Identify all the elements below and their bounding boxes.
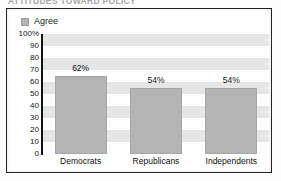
x-tick-democrats: Democrats <box>48 157 114 166</box>
y-tick-20: 20 <box>30 126 39 134</box>
chart-frame: Agree 0102030405060708090100% 62%54%54% … <box>6 8 272 173</box>
y-tick-90: 90 <box>30 42 39 50</box>
chart-page: ATTITUDES TOWARD POLICY Agree 0102030405… <box>0 0 281 181</box>
bar-slot-democrats: 62% <box>55 34 107 154</box>
bar-slot-independents: 54% <box>205 34 257 154</box>
y-tick-100: 100% <box>19 30 39 38</box>
cropped-title: ATTITUDES TOWARD POLICY <box>8 0 168 5</box>
y-tick-30: 30 <box>30 114 39 122</box>
agree-swatch-icon <box>21 18 29 26</box>
bar-slot-republicans: 54% <box>130 34 182 154</box>
bar-value-label: 54% <box>147 76 164 85</box>
bar-value-label: 62% <box>72 64 89 73</box>
bar-republicans[interactable] <box>130 88 182 154</box>
y-tick-60: 60 <box>30 78 39 86</box>
y-tick-70: 70 <box>30 66 39 74</box>
bar-democrats[interactable] <box>55 76 107 154</box>
y-tick-40: 40 <box>30 102 39 110</box>
x-tick-republicans: Republicans <box>123 157 189 166</box>
plot-area: 62%54%54% <box>43 34 269 154</box>
bar-group: 62%54%54% <box>43 34 269 154</box>
y-tick-0: 0 <box>35 150 39 158</box>
legend-label-agree: Agree <box>34 17 58 26</box>
x-axis-labels: DemocratsRepublicansIndependents <box>43 157 269 171</box>
bar-independents[interactable] <box>205 88 257 154</box>
bar-value-label: 54% <box>223 76 240 85</box>
y-tick-50: 50 <box>30 90 39 98</box>
chart-legend: Agree <box>21 17 58 26</box>
y-axis-labels: 0102030405060708090100% <box>7 34 41 154</box>
y-tick-80: 80 <box>30 54 39 62</box>
y-tick-10: 10 <box>30 138 39 146</box>
x-tick-independents: Independents <box>198 157 264 166</box>
